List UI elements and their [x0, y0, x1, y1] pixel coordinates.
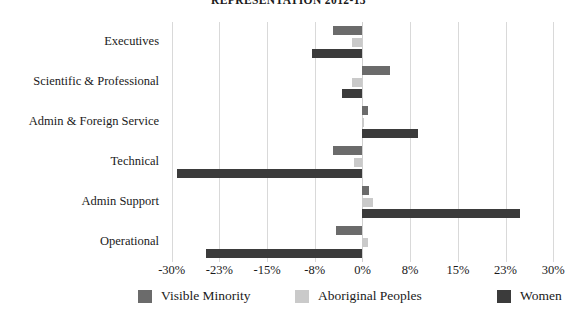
bar-women: [342, 89, 362, 98]
bar-aboriginal-peoples: [362, 238, 367, 247]
y-axis-label: Admin Support: [82, 194, 159, 208]
legend-label: Women: [520, 288, 562, 304]
x-axis-tick: -30%: [158, 263, 185, 278]
bar-visible-minority: [333, 146, 362, 155]
legend-swatch-icon: [138, 290, 152, 303]
y-axis-category-labels: ExecutivesScientific & ProfessionalAdmin…: [0, 22, 167, 262]
y-axis-label: Executives: [104, 34, 159, 48]
y-axis-label: Admin & Foreign Service: [29, 114, 159, 128]
x-axis-tick-labels: -30%-23%-15%-8%0%8%15%23%30%: [172, 263, 554, 281]
legend-swatch-icon: [497, 290, 511, 303]
bar-group: [172, 182, 554, 222]
legend-swatch-icon: [295, 290, 309, 303]
legend-label: Visible Minority: [161, 288, 251, 304]
plot-area: [172, 22, 554, 262]
y-axis-label: Operational: [100, 234, 159, 248]
bar-group: [172, 222, 554, 262]
bar-visible-minority: [362, 186, 368, 195]
bar-group: [172, 22, 554, 62]
bar-women: [177, 169, 363, 178]
bar-visible-minority: [336, 226, 362, 235]
bar-aboriginal-peoples: [352, 38, 362, 47]
representation-bar-chart: REPRESENTATION 2012-13 ExecutivesScienti…: [0, 0, 577, 313]
x-axis-tick: 15%: [446, 263, 469, 278]
bar-aboriginal-peoples: [362, 118, 363, 127]
legend-item-aboriginal-peoples[interactable]: Aboriginal Peoples: [295, 288, 422, 304]
bar-visible-minority: [362, 66, 389, 75]
bar-visible-minority: [333, 26, 363, 35]
chart-title: REPRESENTATION 2012-13: [0, 0, 577, 6]
bar-visible-minority: [362, 106, 367, 115]
y-axis-label: Technical: [111, 154, 159, 168]
x-axis-tick: -23%: [206, 263, 233, 278]
y-axis-label: Scientific & Professional: [33, 74, 159, 88]
bar-women: [206, 249, 362, 258]
x-axis-tick: 23%: [494, 263, 517, 278]
x-axis-tick: -8%: [304, 263, 325, 278]
bar-group: [172, 102, 554, 142]
bar-group: [172, 142, 554, 182]
x-axis-tick: 30%: [542, 263, 565, 278]
bar-women: [312, 49, 363, 58]
chart-legend: Visible MinorityAboriginal PeoplesWomen: [0, 288, 577, 310]
legend-item-visible-minority[interactable]: Visible Minority: [138, 288, 251, 304]
bar-aboriginal-peoples: [354, 158, 363, 167]
gridline: [553, 22, 554, 262]
bar-aboriginal-peoples: [362, 198, 372, 207]
bar-women: [362, 129, 417, 138]
bar-aboriginal-peoples: [352, 78, 362, 87]
x-axis-tick: -15%: [254, 263, 281, 278]
legend-label: Aboriginal Peoples: [318, 288, 422, 304]
x-axis-tick: 8%: [402, 263, 419, 278]
bar-group: [172, 62, 554, 102]
bar-women: [362, 209, 520, 218]
legend-item-women[interactable]: Women: [497, 288, 562, 304]
x-axis-tick: 0%: [354, 263, 371, 278]
